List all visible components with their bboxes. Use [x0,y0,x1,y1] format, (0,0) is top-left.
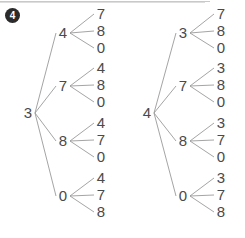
right-tree-leaf-node-2-2: 0 [214,149,228,164]
right-tree-leaf-node-0-0: 7 [214,6,228,21]
right-tree-leaf-node-1-0: 3 [214,60,228,75]
left-tree-edge-2-2 [70,141,94,157]
scan-rule-top-secondary [0,2,205,3]
left-tree-edge-root-3 [35,113,56,196]
right-tree-edge-3-1 [190,195,214,196]
right-tree-leaf-node-0-2: 0 [214,40,228,55]
right-tree-leaf-node-3-2: 8 [214,204,228,219]
right-tree-edge-2-2 [190,141,214,157]
right-tree-edge-root-1 [154,86,176,113]
left-tree-edge-2-1 [70,140,94,141]
left-tree-edge-3-0 [70,178,94,196]
left-tree-edge-root-0 [35,33,56,113]
left-tree-edge-0-1 [70,31,94,33]
left-tree-leaf-node-1-0: 4 [94,60,108,75]
left-tree-edge-root-2 [35,113,56,141]
problem-number-badge: 4 [5,8,20,23]
left-tree-edge-0-0 [70,14,94,33]
right-tree-leaf-node-1-2: 0 [214,94,228,109]
left-tree-edge-1-0 [70,68,94,86]
right-tree-branch-node-2: 8 [176,133,190,148]
left-tree-leaf-node-2-2: 0 [94,149,108,164]
left-tree-leaf-node-0-2: 0 [94,40,108,55]
left-tree-edge-3-1 [70,195,94,196]
worksheet-page: 4 3478074808470047843780738083700378 [0,0,245,238]
right-tree-leaf-node-1-1: 8 [214,77,228,92]
right-tree-edge-1-2 [190,86,214,102]
left-tree-leaf-node-3-2: 8 [94,204,108,219]
left-tree-branch-node-2: 8 [56,133,70,148]
right-tree-leaf-node-3-0: 3 [214,170,228,185]
left-tree-edge-root-1 [35,86,56,113]
right-tree-edge-3-0 [190,178,214,196]
left-tree-leaf-node-1-1: 8 [94,77,108,92]
right-tree-edge-root-0 [154,33,176,113]
left-tree-edge-2-0 [70,123,94,141]
right-tree-edge-0-2 [190,33,214,48]
left-tree-leaf-node-2-0: 4 [94,115,108,130]
left-tree-leaf-node-0-0: 7 [94,6,108,21]
right-tree-edge-1-1 [190,85,214,86]
right-tree-edge-3-2 [190,196,214,212]
left-tree-branch-node-3: 0 [56,188,70,203]
right-tree-edge-2-1 [190,140,214,141]
left-tree-leaf-node-3-0: 4 [94,170,108,185]
right-tree-leaf-node-2-1: 7 [214,132,228,147]
left-tree-leaf-node-2-1: 7 [94,132,108,147]
right-tree-leaf-node-0-1: 8 [214,23,228,38]
right-tree-branch-node-3: 0 [176,188,190,203]
right-tree-edge-0-0 [190,14,214,33]
right-tree-edge-1-0 [190,68,214,86]
right-tree-root-node: 4 [140,105,154,120]
left-tree-branch-node-1: 7 [56,78,70,93]
left-tree-edge-0-2 [70,33,94,48]
left-tree-leaf-node-3-1: 7 [94,187,108,202]
right-tree-branch-node-1: 7 [176,78,190,93]
left-tree-root-node: 3 [21,105,35,120]
left-tree-edge-1-2 [70,86,94,102]
right-tree-edge-root-3 [154,113,176,196]
right-tree-leaf-node-2-0: 3 [214,115,228,130]
right-tree-edge-0-1 [190,31,214,33]
right-tree-branch-node-0: 3 [176,25,190,40]
left-tree-edge-3-2 [70,196,94,212]
tree-edges [0,0,245,238]
right-tree-leaf-node-3-1: 7 [214,187,228,202]
right-tree-edge-2-0 [190,123,214,141]
right-tree-edge-root-2 [154,113,176,141]
left-tree-leaf-node-1-2: 0 [94,94,108,109]
left-tree-edge-1-1 [70,85,94,86]
left-tree-leaf-node-0-1: 8 [94,23,108,38]
left-tree-branch-node-0: 4 [56,25,70,40]
